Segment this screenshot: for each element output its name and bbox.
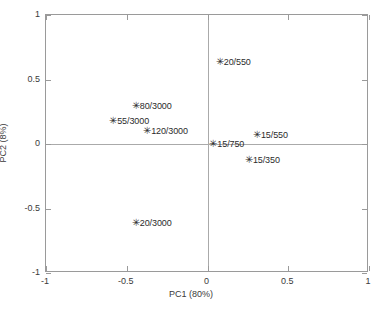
y-tick-right-3 <box>362 209 367 210</box>
asterisk-marker-icon: ✳ <box>109 116 117 126</box>
data-point-label: 20/3000 <box>140 219 172 228</box>
data-point[interactable]: ✳20/550 <box>216 53 251 69</box>
data-point[interactable]: ✳20/3000 <box>132 215 172 231</box>
x-tick-0 <box>46 266 47 271</box>
x-tick-label-3: 0.5 <box>281 277 294 286</box>
y-tick-1 <box>46 80 51 81</box>
y-tick-label-4: -1 <box>18 268 40 277</box>
data-point-label: 120/3000 <box>151 127 188 136</box>
x-tick-label-1: -0.5 <box>118 277 134 286</box>
x-tick-3 <box>288 266 289 271</box>
x-tick-1 <box>127 266 128 271</box>
asterisk-marker-icon: ✳ <box>245 155 253 165</box>
y-tick-label-2: 0 <box>18 139 40 148</box>
x-tick-top-3 <box>288 15 289 20</box>
data-point[interactable]: ✳80/3000 <box>132 97 172 113</box>
data-point-label: 15/550 <box>261 131 288 140</box>
zero-line-vertical <box>208 15 209 271</box>
plot-area: ✳20/550✳80/3000✳55/3000✳120/3000✳15/550✳… <box>45 14 368 272</box>
asterisk-marker-icon: ✳ <box>216 57 224 67</box>
x-tick-top-4 <box>369 15 370 20</box>
y-tick-3 <box>46 209 51 210</box>
x-tick-4 <box>369 266 370 271</box>
data-point[interactable]: ✳15/350 <box>245 151 280 167</box>
data-point[interactable]: ✳15/750 <box>209 136 244 152</box>
data-point-label: 80/3000 <box>140 102 172 111</box>
y-axis-title: PC2 (8%) <box>0 123 8 162</box>
asterisk-marker-icon: ✳ <box>253 130 261 140</box>
zero-line-horizontal <box>46 144 367 145</box>
y-tick-label-3: -0.5 <box>18 203 40 212</box>
y-tick-right-2 <box>362 144 367 145</box>
y-tick-4 <box>46 273 51 274</box>
data-point-label: 20/550 <box>224 58 251 67</box>
y-tick-right-4 <box>362 273 367 274</box>
data-point-label: 15/750 <box>217 140 244 149</box>
x-tick-label-4: 1 <box>365 277 370 286</box>
y-tick-label-1: 0.5 <box>18 74 40 83</box>
x-tick-label-2: 0 <box>204 277 209 286</box>
x-axis-title: PC1 (80%) <box>0 290 382 299</box>
x-tick-top-2 <box>208 15 209 20</box>
asterisk-marker-icon: ✳ <box>209 139 217 149</box>
x-tick-2 <box>208 266 209 271</box>
pca-scatter-figure: PC2 (8%) PC1 (80%) -1-0.500.51 10.50-0.5… <box>0 0 382 312</box>
asterisk-marker-icon: ✳ <box>132 101 140 111</box>
y-tick-0 <box>46 15 51 16</box>
data-point[interactable]: ✳15/550 <box>253 127 288 143</box>
asterisk-marker-icon: ✳ <box>143 126 151 136</box>
asterisk-marker-icon: ✳ <box>132 218 140 228</box>
y-tick-2 <box>46 144 51 145</box>
y-tick-label-0: 1 <box>18 10 40 19</box>
data-point[interactable]: ✳120/3000 <box>143 123 188 139</box>
y-tick-right-1 <box>362 80 367 81</box>
data-point-label: 15/350 <box>253 156 280 165</box>
y-tick-right-0 <box>362 15 367 16</box>
x-tick-top-1 <box>127 15 128 20</box>
x-tick-label-0: -1 <box>41 277 49 286</box>
